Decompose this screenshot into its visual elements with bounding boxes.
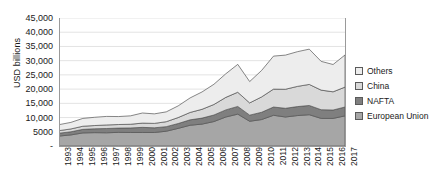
y-axis-tick-label: 15,000 (25, 98, 53, 108)
plot-right-border (345, 18, 346, 147)
y-axis-ticks: 45,00040,00035,00030,00025,00020,00015,0… (0, 0, 57, 188)
legend-item-label: Others (367, 66, 393, 76)
y-axis-tick-label: 25,000 (25, 70, 53, 80)
y-axis-tick-label: 20,000 (25, 84, 53, 94)
legend-swatch-icon (355, 67, 363, 75)
plot-svg (59, 18, 345, 146)
legend-item-label: NAFTA (367, 96, 394, 106)
y-axis-tick-label: 40,000 (25, 27, 53, 37)
y-axis-tick-label: 5000 (33, 127, 53, 137)
legend-swatch-icon (355, 97, 363, 105)
x-axis-tick-label: 2011 (278, 147, 288, 165)
stacked-area-chart: USD billions 45,00040,00035,00030,00025,… (0, 0, 435, 188)
x-axis-tick-label: 2017 (349, 147, 359, 166)
x-axis-tick-label: 2002 (170, 147, 180, 166)
legend-item[interactable]: China (355, 79, 435, 93)
x-axis-tick-label: 2006 (218, 147, 228, 166)
x-axis-tick-label: 1997 (111, 147, 121, 166)
x-axis-tick-label: 1995 (87, 147, 97, 166)
legend-item-label: European Union (367, 111, 428, 121)
x-axis-tick-label: 2016 (337, 147, 347, 166)
x-axis-tick-label: 2007 (230, 147, 240, 166)
x-axis-tick-label: 1998 (123, 147, 133, 166)
x-axis-tick-label: 2014 (313, 147, 323, 166)
legend-item[interactable]: Others (355, 64, 435, 78)
y-axis-line (59, 18, 60, 147)
legend-swatch-icon (355, 82, 363, 90)
x-axis-tick-label: 2003 (182, 147, 192, 166)
x-axis-tick-label: 1993 (63, 147, 73, 166)
y-axis-tick-label: 30,000 (25, 56, 53, 66)
x-axis-tick-label: 2008 (242, 147, 252, 166)
legend-item-label: China (367, 81, 389, 91)
y-axis-tick-label: 35,000 (25, 41, 53, 51)
x-axis-tick-label: 2013 (302, 147, 312, 166)
x-axis-tick-label: 2005 (206, 147, 216, 166)
x-axis-tick-label: 2012 (290, 147, 300, 166)
x-axis-tick-label: 1994 (75, 147, 85, 166)
x-axis-tick-label: 2004 (194, 147, 204, 166)
x-axis-tick-label: 2015 (325, 147, 335, 166)
x-axis-tick-label: 2000 (147, 147, 157, 166)
legend-item[interactable]: European Union (355, 109, 435, 123)
chart-legend: OthersChinaNAFTAEuropean Union (355, 64, 435, 124)
y-axis-tick-label: - (50, 141, 53, 151)
x-axis-tick-label: 2001 (159, 147, 169, 166)
y-axis-tick-label: 10,000 (25, 113, 53, 123)
x-axis-tick-label: 1996 (99, 147, 109, 166)
legend-swatch-icon (355, 112, 363, 120)
y-axis-tick-label: 45,000 (25, 13, 53, 23)
legend-item[interactable]: NAFTA (355, 94, 435, 108)
x-axis-ticks: 1993199419951996199719981999200020012002… (59, 147, 345, 188)
x-axis-tick-label: 2010 (266, 147, 276, 166)
x-axis-tick-label: 1999 (135, 147, 145, 166)
plot-area (59, 18, 345, 146)
x-axis-tick-label: 2009 (254, 147, 264, 166)
